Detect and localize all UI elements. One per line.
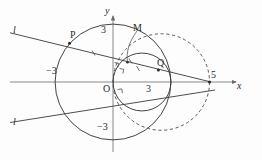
right-angle-mark-upper [115, 63, 119, 68]
origin-label-O: O [103, 84, 110, 94]
axis-group [10, 16, 236, 152]
right-angle-mark-mid [120, 69, 124, 74]
point-M-dot [126, 61, 129, 64]
line-label-l-upper: l [13, 25, 16, 35]
chord-tick-3 [137, 66, 140, 71]
point-5-dot [208, 80, 211, 83]
point-label-Q: Q [157, 58, 164, 68]
point-label-P: P [70, 30, 76, 40]
y-tick-label-3: 3 [101, 25, 106, 35]
y-tick-label-neg3: −3 [97, 122, 108, 132]
x-tick-label-neg3: −3 [46, 66, 57, 76]
geometry-figure: l l P Q M O 3 −3 −3 3 5 x y [0, 0, 262, 160]
secant-line-upper [10, 33, 211, 82]
point-Q-dot [157, 69, 160, 72]
x-tick-label-5: 5 [211, 70, 216, 80]
geometry-canvas [0, 0, 262, 160]
line-label-l-lower: l [13, 117, 16, 127]
x-axis-label: x [237, 81, 241, 91]
point-P-dot [68, 42, 71, 45]
secant-line-lower [10, 90, 215, 123]
y-axis-label: y [105, 6, 109, 16]
m-leader-line [127, 31, 137, 62]
point-label-M: M [133, 23, 142, 33]
right-angle-mark-lower [118, 89, 123, 93]
x-tick-label-3: 3 [146, 84, 151, 94]
